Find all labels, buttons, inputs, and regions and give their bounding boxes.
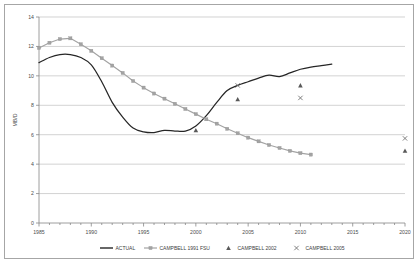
data-point-marker [142,86,145,89]
series-campbell-2005 [235,83,407,140]
data-point-marker [121,71,124,74]
data-point-marker [298,83,303,87]
legend-label: CAMPBELL 2005 [306,245,345,251]
data-point-marker [58,37,61,40]
data-point-marker [69,37,72,40]
chart-frame: 02468101214 1985199019952000200520102015… [4,4,414,259]
data-point-marker [37,46,40,49]
series-actual [39,54,332,132]
data-point-marker [247,136,250,139]
series-campbell-1991-fsu [37,37,312,156]
data-point-marker [194,128,199,132]
data-point-marker [257,140,260,143]
y-tick-label: 2 [31,190,34,196]
axis-lines [39,17,405,223]
data-point-marker [173,102,176,105]
y-tick-label: 12 [28,43,34,49]
y-tick-label: 14 [28,14,34,20]
x-tick-label: 1995 [138,229,150,235]
data-point-marker [267,143,270,146]
plot-area: 02468101214 1985199019952000200520102015… [5,5,415,260]
chart-legend: ACTUALCAMPBELL 1991 FSUCAMPBELL 2002CAMP… [100,245,345,251]
legend-label: ACTUAL [116,245,136,251]
y-tick-label: 4 [31,161,34,167]
data-point-marker [205,118,208,121]
data-series [37,37,407,156]
data-point-marker [90,49,93,52]
data-point-marker [226,246,231,250]
gridlines [39,17,405,194]
x-axis-ticks: 19851990199520002005201020152020 [33,223,411,235]
y-tick-label: 10 [28,73,34,79]
legend-item[interactable]: ACTUAL [100,245,135,251]
data-point-marker [149,246,152,249]
x-tick-label: 2015 [347,229,359,235]
x-tick-label: 2000 [190,229,202,235]
data-point-marker [403,149,408,153]
data-point-marker [111,64,114,67]
data-point-marker [79,43,82,46]
y-axis-title: MB/D [12,113,18,126]
data-point-marker [226,127,229,130]
x-tick-label: 2005 [242,229,254,235]
data-point-marker [132,79,135,82]
y-tick-label: 8 [31,102,34,108]
y-tick-label: 0 [31,220,34,226]
legend-item[interactable]: CAMPBELL 2002 [226,245,277,251]
chart-svg: 02468101214 1985199019952000200520102015… [5,5,415,260]
data-point-marker [163,97,166,100]
data-point-marker [100,57,103,60]
x-tick-label: 1990 [86,229,98,235]
data-point-marker [299,152,302,155]
legend-item[interactable]: CAMPBELL 1991 FSU [144,245,210,251]
data-point-marker [288,149,291,152]
legend-label: CAMPBELL 1991 FSU [160,245,211,251]
data-point-marker [184,107,187,110]
x-tick-label: 2010 [295,229,307,235]
data-point-marker [152,92,155,95]
x-tick-label: 1985 [33,229,45,235]
data-point-marker [235,97,240,101]
series-campbell-2002 [194,83,408,153]
legend-item[interactable]: CAMPBELL 2005 [294,245,344,251]
data-point-marker [236,132,239,135]
data-point-marker [194,113,197,116]
data-point-marker [309,153,312,156]
y-tick-label: 6 [31,132,34,138]
legend-label: CAMPBELL 2002 [238,245,277,251]
data-point-marker [48,41,51,44]
x-tick-label: 2020 [399,229,411,235]
data-point-marker [215,122,218,125]
y-axis-ticks: 02468101214 [28,14,39,226]
data-point-marker [278,146,281,149]
